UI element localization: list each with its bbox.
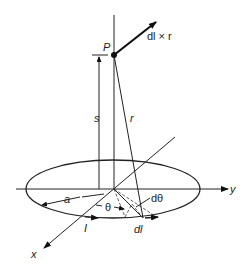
point-p-dot	[111, 52, 117, 58]
label-dtheta: dθ	[151, 192, 163, 204]
theta-tail	[96, 205, 102, 206]
dtheta-edge	[114, 189, 155, 216]
dashed-projection	[114, 189, 125, 217]
label-p: P	[103, 41, 111, 53]
dtheta-leader	[136, 198, 150, 207]
label-theta: θ	[105, 201, 111, 213]
label-dl-cross-r: dl × r	[147, 30, 172, 42]
radius-a-line	[82, 194, 104, 197]
radius-a-arrow	[42, 197, 80, 205]
theta-arrow	[114, 207, 124, 209]
label-s: s	[94, 112, 100, 124]
dl-element-arrow	[145, 217, 158, 218]
label-dl: dl	[134, 223, 143, 235]
label-a: a	[64, 193, 70, 205]
label-r: r	[130, 112, 135, 124]
label-x-axis: x	[30, 248, 37, 260]
label-current: I	[84, 222, 87, 234]
label-y-axis: y	[229, 183, 237, 195]
loop-diagram: P dl × r s r a θ dθ I dl x y	[0, 0, 246, 272]
